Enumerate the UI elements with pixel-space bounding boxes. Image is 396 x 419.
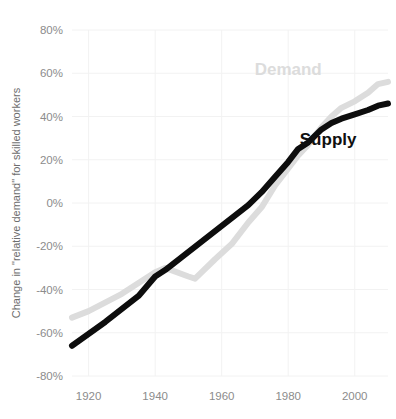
y-tick-label: 80%	[40, 24, 63, 36]
series-label-supply: Supply	[300, 130, 357, 149]
y-axis-title: Change in "relative demand" for skilled …	[10, 87, 22, 318]
y-tick-label: 60%	[40, 67, 63, 79]
y-tick-label: -40%	[36, 284, 63, 296]
y-tick-label: 40%	[40, 111, 63, 123]
series-lines	[72, 82, 388, 346]
x-tick-label: 2000	[342, 390, 368, 402]
x-tick-label: 1940	[142, 390, 168, 402]
chart-container: -80%-60%-40%-20%0%20%40%60%80% 192019401…	[0, 0, 396, 419]
y-tick-label: -80%	[36, 370, 63, 382]
gridlines	[72, 30, 388, 376]
y-tick-label: 0%	[46, 197, 63, 209]
y-tick-label: 20%	[40, 154, 63, 166]
x-tick-label: 1920	[76, 390, 102, 402]
x-tick-label: 1960	[209, 390, 235, 402]
y-tick-label: -20%	[36, 240, 63, 252]
y-tick-label: -60%	[36, 327, 63, 339]
series-label-demand: Demand	[255, 60, 322, 79]
x-axis-tick-labels: 19201940196019802000	[76, 390, 368, 402]
line-chart: -80%-60%-40%-20%0%20%40%60%80% 192019401…	[0, 0, 396, 419]
y-axis-tick-labels: -80%-60%-40%-20%0%20%40%60%80%	[36, 24, 63, 382]
x-tick-label: 1980	[275, 390, 301, 402]
